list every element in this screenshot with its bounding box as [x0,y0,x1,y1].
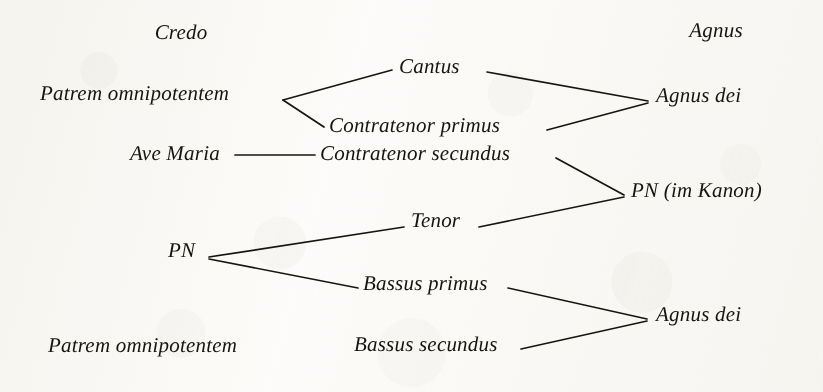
connector-contratenor-secundus-to-pn-kanon [556,158,624,195]
node-patrem-omnipotentem-bottom: Patrem omnipotentem [48,335,237,356]
column-heading-agnus: Agnus [689,20,743,41]
connector-tenor-to-pn-kanon [479,197,624,227]
connector-cantus-to-agnus-dei [487,72,648,101]
node-bassus-primus: Bassus primus [363,273,488,294]
node-pn: PN [168,240,195,261]
connector-patrem-to-cantus [283,70,392,100]
connector-pn-to-tenor [209,227,404,257]
connector-contratenor-primus-to-agnus-dei [547,103,648,130]
connector-pn-to-bassus-primus [209,259,358,288]
node-agnus-dei-top: Agnus dei [656,85,741,106]
node-contratenor-primus: Contratenor primus [329,115,500,136]
connector-bassus-secundus-to-agnus-dei [521,321,647,349]
node-bassus-secundus: Bassus secundus [354,334,498,355]
column-heading-credo: Credo [155,22,208,43]
node-ave-maria: Ave Maria [130,143,220,164]
node-cantus: Cantus [399,56,460,77]
connector-bassus-primus-to-agnus-dei [508,288,647,319]
connector-patrem-to-contratenor-primus [283,100,324,127]
node-tenor: Tenor [411,210,460,231]
node-patrem-omnipotentem-top: Patrem omnipotentem [40,83,229,104]
node-agnus-dei-bottom: Agnus dei [656,304,741,325]
diagram-page: Credo Agnus Patrem omnipotentem Cantus C… [0,0,823,392]
node-pn-im-kanon: PN (im Kanon) [631,180,762,201]
node-contratenor-secundus: Contratenor secundus [320,143,510,164]
